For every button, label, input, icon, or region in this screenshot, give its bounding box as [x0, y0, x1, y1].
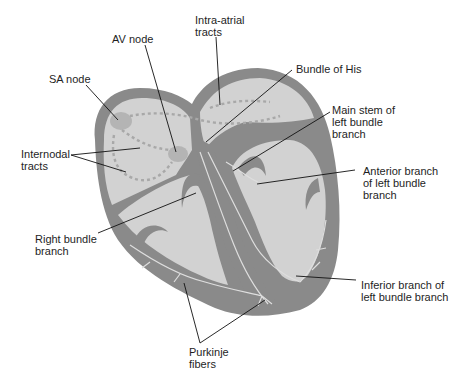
label-internodal-tracts: Internodal tracts [21, 148, 70, 172]
label-inferior-branch: Inferior branch of left bundle branch [361, 279, 448, 303]
label-main-stem-left-bundle: Main stem of left bundle branch [332, 104, 395, 140]
label-purkinje-fibers: Purkinje fibers [189, 346, 229, 370]
label-right-bundle-branch: Right bundle branch [35, 233, 97, 257]
label-bundle-of-his: Bundle of His [296, 63, 361, 75]
heart-conduction-diagram: Intra-atrial tracts AV node SA node Bund… [0, 0, 457, 383]
av-node [168, 146, 188, 162]
label-anterior-branch: Anterior branch of left bundle branch [363, 165, 438, 201]
label-av-node: AV node [112, 33, 153, 45]
label-sa-node: SA node [49, 73, 91, 85]
label-intra-atrial-tracts: Intra-atrial tracts [195, 14, 245, 38]
